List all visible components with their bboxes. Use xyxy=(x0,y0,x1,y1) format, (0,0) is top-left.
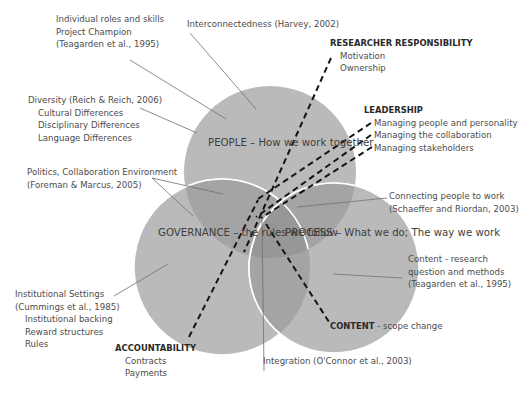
people-circle-label: PEOPLE – How we work together xyxy=(208,136,374,150)
annotation-individual-roles: Individual roles and skills Project Cham… xyxy=(56,13,164,51)
theme-leadership: LEADERSHIP Managing people and personali… xyxy=(364,104,518,154)
annotation-connecting: Connecting people to work (Schaeffer and… xyxy=(389,190,519,215)
governance-circle-label: GOVERNANCE – the rules we follow xyxy=(158,226,254,240)
theme-researcher-responsibility: RESEARCHER RESPONSIBILITY Motivation Own… xyxy=(330,37,472,75)
theme-content: CONTENT - scope change xyxy=(330,320,443,333)
annotation-content-research: Content - research question and methods … xyxy=(408,253,511,291)
annotation-politics: Politics, Collaboration Environment (For… xyxy=(27,166,177,191)
annotation-institutional: Institutional Settings (Cummings et al.,… xyxy=(15,288,120,351)
process-circle-label: PROCESS – What we do; The way we work xyxy=(285,226,369,240)
annotation-interconnectedness: Interconnectedness (Harvey, 2002) xyxy=(187,18,339,31)
leader-interconnectedness xyxy=(190,33,256,109)
annotation-integration: Integration (O'Connor et al., 2003) xyxy=(263,355,412,368)
theme-accountability: ACCOUNTABILITY Contracts Payments xyxy=(115,342,196,380)
annotation-diversity: Diversity (Reich & Reich, 2006) Cultural… xyxy=(28,94,162,144)
